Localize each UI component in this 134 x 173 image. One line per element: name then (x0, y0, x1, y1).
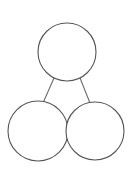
part-circle-left[interactable] (8, 101, 68, 161)
connector-line-left (43, 78, 54, 103)
whole-circle[interactable] (38, 23, 96, 81)
number-bond-canvas (0, 0, 134, 173)
connector-line-right (80, 78, 90, 103)
part-circle-right[interactable] (66, 102, 124, 160)
number-bond-diagram (0, 0, 134, 173)
